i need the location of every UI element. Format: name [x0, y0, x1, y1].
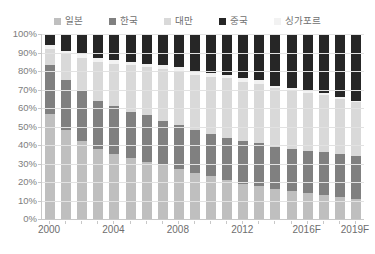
- y-axis-tick-label: 90%: [0, 48, 37, 58]
- x-axis-tick-mark: [323, 221, 324, 224]
- bar-segment-일본: [126, 158, 136, 219]
- bar-segment-중국: [77, 34, 87, 54]
- bar-segment-일본: [77, 141, 87, 219]
- x-axis-tick-label: 2000: [38, 225, 60, 235]
- bar-segment-대만: [109, 64, 119, 107]
- legend-label: 일본: [65, 16, 83, 26]
- gridline: [42, 145, 364, 146]
- x-axis-tick-mark: [274, 221, 275, 224]
- x-axis-tick-mark: [130, 221, 131, 224]
- x-axis-tick-mark: [291, 221, 292, 224]
- bar-segment-대만: [270, 88, 280, 147]
- y-axis-tick-label: 30%: [0, 159, 37, 169]
- x-axis-tick-mark: [194, 221, 195, 224]
- legend-item-대만[interactable]: 대만: [164, 16, 193, 26]
- bar-segment-대만: [45, 49, 55, 66]
- bar-segment-중국: [174, 34, 184, 67]
- bar-segment-한국: [174, 125, 184, 169]
- x-axis-tick-mark: [258, 221, 259, 224]
- legend-item-싱가포르[interactable]: 싱가포르: [274, 16, 321, 26]
- bar-segment-대만: [303, 93, 313, 150]
- plot-area: [41, 34, 364, 220]
- bar-segment-한국: [319, 152, 329, 195]
- y-axis-tick-label: 100%: [0, 29, 37, 39]
- bar-segment-중국: [254, 34, 264, 80]
- bar-segment-중국: [222, 34, 232, 75]
- legend-swatch-icon: [219, 18, 226, 25]
- gridline: [42, 164, 364, 165]
- gridline: [42, 108, 364, 109]
- bar-segment-대만: [319, 95, 329, 152]
- bar-segment-일본: [61, 130, 71, 219]
- bar-segment-중국: [109, 34, 119, 60]
- bar-segment-한국: [303, 151, 313, 194]
- x-axis-tick-label: 2008: [167, 225, 189, 235]
- bar-segment-중국: [142, 34, 152, 64]
- bar-segment-한국: [158, 121, 168, 165]
- bar-segment-대만: [254, 84, 264, 143]
- legend-swatch-icon: [109, 18, 116, 25]
- bar-segment-일본: [174, 169, 184, 219]
- bar-segment-일본: [93, 149, 103, 219]
- y-axis-tick-label: 20%: [0, 177, 37, 187]
- y-axis-tick-label: 70%: [0, 85, 37, 95]
- x-axis-tick-mark: [81, 221, 82, 224]
- bar-segment-한국: [126, 112, 136, 158]
- bar-segment-중국: [270, 34, 280, 86]
- bar-segment-대만: [190, 75, 200, 131]
- bar-segment-한국: [287, 149, 297, 192]
- legend-item-한국[interactable]: 한국: [109, 16, 138, 26]
- bar-segment-중국: [303, 34, 313, 91]
- bar-segment-대만: [287, 90, 297, 149]
- gridline: [42, 90, 364, 91]
- bar-segment-대만: [77, 58, 87, 91]
- x-axis-tick-label: 2016F: [292, 225, 320, 235]
- bar-segment-일본: [45, 114, 55, 219]
- bar-segment-중국: [126, 34, 136, 62]
- bar-segment-중국: [93, 34, 103, 58]
- bar-segment-일본: [319, 195, 329, 219]
- bar-segment-한국: [206, 134, 216, 177]
- bar-segment-한국: [77, 91, 87, 141]
- legend-label: 싱가포르: [285, 16, 321, 26]
- x-axis-tick-mark: [65, 221, 66, 224]
- bar-segment-중국: [351, 34, 361, 101]
- bar-segment-대만: [174, 71, 184, 125]
- bar-segment-중국: [158, 34, 168, 65]
- bar-segment-한국: [190, 130, 200, 173]
- y-axis-tick-label: 80%: [0, 66, 37, 76]
- bar-segment-대만: [61, 54, 71, 80]
- bar-segment-한국: [142, 115, 152, 161]
- x-axis-tick-mark: [210, 221, 211, 224]
- x-axis-tick-label: 2019F: [341, 225, 369, 235]
- bar-segment-중국: [335, 34, 345, 97]
- bar-segment-일본: [270, 189, 280, 219]
- stacked-bar-chart: 일본한국대만중국싱가포르 100%90%80%70%60%50%40%30%20…: [0, 0, 375, 254]
- legend-label: 중국: [230, 16, 248, 26]
- x-axis-tick-label: 2012: [231, 225, 253, 235]
- bar-segment-대만: [93, 62, 103, 101]
- bar-segment-중국: [45, 34, 55, 45]
- gridline: [42, 127, 364, 128]
- bar-segment-대만: [206, 77, 216, 134]
- bar-segment-한국: [335, 154, 345, 197]
- gridline: [42, 53, 364, 54]
- bar-segment-한국: [222, 138, 232, 181]
- legend-swatch-icon: [274, 18, 281, 25]
- y-axis-tick-label: 0%: [0, 214, 37, 224]
- bar-segment-대만: [238, 82, 248, 141]
- legend-swatch-icon: [164, 18, 171, 25]
- x-axis-tick-label: 2004: [102, 225, 124, 235]
- bar-segment-일본: [142, 162, 152, 219]
- x-axis-tick-mark: [226, 221, 227, 224]
- legend-item-일본[interactable]: 일본: [54, 16, 83, 26]
- legend-item-중국[interactable]: 중국: [219, 16, 248, 26]
- x-axis-tick-mark: [339, 221, 340, 224]
- gridline: [42, 201, 364, 202]
- bar-segment-한국: [270, 147, 280, 190]
- bar-segment-일본: [254, 186, 264, 219]
- bar-segment-일본: [287, 191, 297, 219]
- bar-segment-대만: [158, 69, 168, 121]
- bar-segment-일본: [190, 173, 200, 219]
- bar-segment-중국: [319, 34, 329, 93]
